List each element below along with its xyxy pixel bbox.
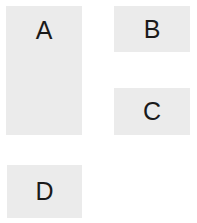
- panel-b-label: B: [114, 6, 190, 52]
- panel-c-label: C: [114, 88, 190, 135]
- diagram-canvas: A B C D: [0, 0, 197, 223]
- panel-d-label: D: [7, 165, 82, 218]
- panel-a-label: A: [6, 6, 82, 54]
